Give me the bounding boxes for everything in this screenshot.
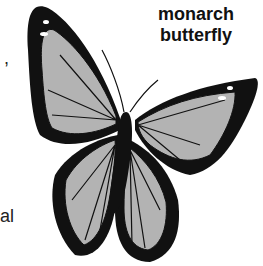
butterfly-illustration <box>0 0 263 266</box>
